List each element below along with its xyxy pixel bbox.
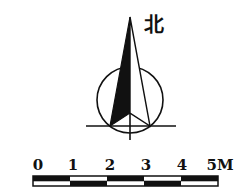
scale-label-4: 4 — [177, 158, 187, 173]
scale-label-3: 3 — [141, 158, 151, 173]
scale-label-5m: 5M — [206, 158, 233, 173]
scale-bar — [33, 176, 218, 186]
scale-label-1: 1 — [68, 158, 78, 173]
scale-label-0: 0 — [33, 158, 43, 173]
scale-label-2: 2 — [105, 158, 115, 173]
